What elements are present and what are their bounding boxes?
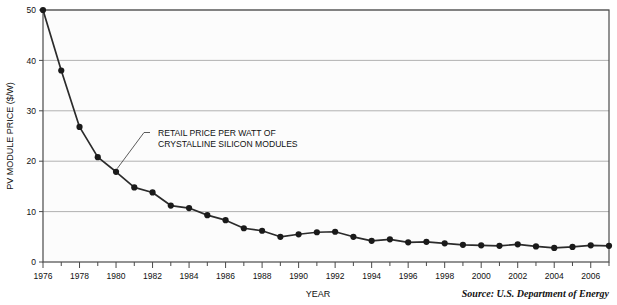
data-point-2001[interactable] [496, 243, 502, 249]
y-tick-label-40: 40 [27, 56, 37, 66]
data-point-1989[interactable] [277, 234, 283, 240]
data-point-2006[interactable] [588, 242, 594, 248]
data-point-1991[interactable] [314, 229, 320, 235]
data-point-1993[interactable] [350, 234, 356, 240]
data-point-1996[interactable] [405, 239, 411, 245]
data-point-1978[interactable] [76, 124, 82, 130]
data-point-1998[interactable] [442, 240, 448, 246]
x-tick-label-1976: 1976 [34, 271, 53, 281]
x-tick-label-1992: 1992 [326, 271, 345, 281]
x-tick-label-1996: 1996 [399, 271, 418, 281]
chart-container: 0102030405019761978198019821984198619881… [0, 0, 617, 305]
x-tick-label-2006: 2006 [581, 271, 600, 281]
data-point-2005[interactable] [569, 244, 575, 250]
y-tick-label-50: 50 [27, 5, 37, 15]
x-tick-label-1980: 1980 [107, 271, 126, 281]
data-point-1981[interactable] [131, 184, 137, 190]
x-tick-label-2000: 2000 [472, 271, 491, 281]
x-tick-label-2002: 2002 [508, 271, 527, 281]
data-point-2007[interactable] [606, 243, 612, 249]
data-point-2004[interactable] [551, 245, 557, 251]
x-tick-label-1984: 1984 [180, 271, 199, 281]
data-point-1982[interactable] [149, 189, 155, 195]
x-tick-label-1988: 1988 [253, 271, 272, 281]
x-tick-label-2004: 2004 [545, 271, 564, 281]
y-axis-title: PV MODULE PRICE ($/W) [5, 82, 15, 190]
x-tick-label-1994: 1994 [362, 271, 381, 281]
data-point-1986[interactable] [222, 217, 228, 223]
data-point-2002[interactable] [515, 241, 521, 247]
pv-module-price-line-chart: 0102030405019761978198019821984198619881… [0, 0, 617, 305]
x-tick-label-1986: 1986 [216, 271, 235, 281]
data-point-1999[interactable] [460, 242, 466, 248]
data-point-1995[interactable] [387, 236, 393, 242]
y-tick-label-20: 20 [27, 156, 37, 166]
y-tick-label-30: 30 [27, 106, 37, 116]
data-point-1990[interactable] [296, 231, 302, 237]
x-tick-label-1978: 1978 [70, 271, 89, 281]
y-tick-label-10: 10 [27, 207, 37, 217]
source-attribution: Source: U.S. Department of Energy [462, 288, 610, 299]
data-point-1983[interactable] [168, 202, 174, 208]
data-point-1987[interactable] [241, 225, 247, 231]
x-axis-title: YEAR [306, 289, 331, 299]
data-point-1985[interactable] [204, 212, 210, 218]
plot-area-background [43, 10, 609, 262]
data-point-1984[interactable] [186, 205, 192, 211]
data-point-1977[interactable] [58, 67, 64, 73]
data-point-1994[interactable] [369, 238, 375, 244]
data-point-1992[interactable] [332, 229, 338, 235]
data-point-1988[interactable] [259, 228, 265, 234]
y-tick-label-0: 0 [31, 257, 36, 267]
data-point-1997[interactable] [423, 239, 429, 245]
annotation-line-2: CRYSTALLINE SILICON MODULES [158, 139, 298, 149]
x-tick-label-1982: 1982 [143, 271, 162, 281]
data-point-1979[interactable] [95, 154, 101, 160]
annotation-line-1: RETAIL PRICE PER WATT OF [158, 128, 276, 138]
x-tick-label-1998: 1998 [435, 271, 454, 281]
data-point-1976[interactable] [40, 7, 46, 13]
data-point-2000[interactable] [478, 242, 484, 248]
x-tick-label-1990: 1990 [289, 271, 308, 281]
data-point-1980[interactable] [113, 169, 119, 175]
data-point-2003[interactable] [533, 243, 539, 249]
